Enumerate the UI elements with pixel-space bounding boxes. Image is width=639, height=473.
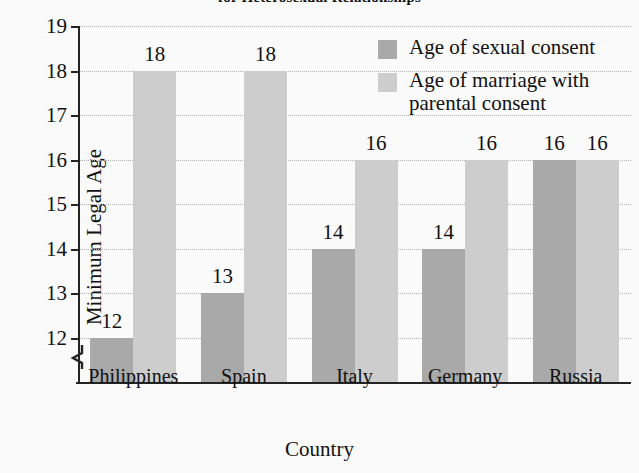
y-axis-tick-label: 13 (46, 283, 67, 304)
bar-value-label: 14 (433, 222, 454, 243)
bar-value-label: 14 (323, 222, 344, 243)
axis-break-icon (69, 344, 87, 370)
bar-chart: for Heterosexual Relationships Minimum L… (0, 0, 639, 473)
y-axis-tick-label: 19 (46, 16, 67, 37)
bar[interactable] (465, 160, 508, 383)
bar[interactable] (244, 71, 287, 383)
y-axis-tick-label: 17 (46, 105, 67, 126)
bar[interactable] (533, 160, 576, 383)
y-axis-tick-label: 14 (46, 238, 67, 259)
bar-value-label: 16 (544, 133, 565, 154)
x-axis-title: Country (0, 437, 639, 462)
bar[interactable] (133, 71, 176, 383)
y-axis-tick-label: 18 (46, 60, 67, 81)
bar[interactable] (355, 160, 398, 383)
legend-item-label: Age of marriage with parental consent (409, 69, 628, 116)
bar-value-label: 13 (212, 266, 233, 287)
x-axis-tick-label: Spain (221, 366, 267, 386)
x-axis-tick-label: Germany (428, 366, 502, 386)
legend-item[interactable]: Age of sexual consent (378, 36, 628, 60)
bar[interactable] (576, 160, 619, 383)
y-axis-tick-label: 16 (46, 149, 67, 170)
x-axis-tick-label: Italy (336, 366, 373, 386)
bar-value-label: 16 (476, 133, 497, 154)
legend-swatch-icon (378, 40, 397, 59)
bar-value-label: 12 (101, 311, 122, 332)
y-axis-tick-label: 15 (46, 194, 67, 215)
bar-value-label: 18 (144, 44, 165, 65)
legend-swatch-icon (378, 73, 397, 92)
bar[interactable] (312, 249, 355, 383)
legend-item[interactable]: Age of marriage with parental consent (378, 69, 628, 116)
chart-legend: Age of sexual consent Age of marriage wi… (378, 36, 628, 125)
y-axis-tick-label: 12 (46, 327, 67, 348)
bar-value-label: 18 (255, 44, 276, 65)
bar-value-label: 16 (587, 133, 608, 154)
x-axis-tick-label: Philippines (88, 366, 178, 386)
gridline (78, 26, 631, 27)
bar[interactable] (422, 249, 465, 383)
legend-item-label: Age of sexual consent (409, 36, 595, 60)
x-axis-tick-label: Russia (549, 366, 602, 386)
chart-title: for Heterosexual Relationships (0, 0, 639, 6)
y-axis-line (78, 26, 80, 382)
bar-value-label: 16 (366, 133, 387, 154)
